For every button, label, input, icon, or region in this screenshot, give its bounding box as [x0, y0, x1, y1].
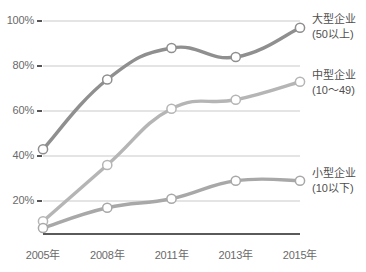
y-axis-tick-label: 20%	[0, 194, 34, 206]
data-point-marker[interactable]	[167, 194, 176, 203]
legend-item-label: 中型企业	[312, 69, 356, 81]
x-axis-tick-label: 2011年	[146, 246, 198, 262]
data-point-marker[interactable]	[38, 223, 47, 232]
x-axis-tick-label: 2008年	[81, 246, 133, 262]
legend-item-sublabel: (10以下)	[312, 181, 356, 196]
legend-item-label: 小型企业	[312, 167, 356, 179]
y-tick-mark-group	[37, 21, 42, 201]
legend-item-label: 大型企业	[312, 13, 356, 25]
legend-item-sublabel: (10～49)	[312, 83, 356, 98]
data-point-marker[interactable]	[231, 52, 240, 61]
x-axis-tick-label: 2005年	[17, 246, 69, 262]
line-chart: 100%80%60%40%20% 2005年2008年2011年2013年201…	[0, 0, 366, 272]
data-point-marker[interactable]	[103, 203, 112, 212]
legend-item-sublabel: (50以上)	[312, 27, 356, 42]
y-axis-tick-label: 80%	[0, 59, 34, 71]
x-axis-tick-label: 2013年	[210, 246, 262, 262]
data-point-marker[interactable]	[167, 43, 176, 52]
y-axis-tick-label: 60%	[0, 104, 34, 116]
data-point-marker[interactable]	[231, 95, 240, 104]
data-point-marker[interactable]	[231, 176, 240, 185]
data-point-marker[interactable]	[103, 75, 112, 84]
data-point-marker[interactable]	[103, 160, 112, 169]
data-point-marker[interactable]	[295, 176, 304, 185]
data-point-marker[interactable]	[167, 104, 176, 113]
legend-item-3[interactable]: 小型企业(10以下)	[312, 166, 356, 196]
y-axis-tick-label: 100%	[0, 14, 34, 26]
y-axis-tick-label: 40%	[0, 149, 34, 161]
x-axis-tick-label: 2015年	[274, 246, 326, 262]
data-point-marker[interactable]	[295, 77, 304, 86]
data-point-marker[interactable]	[38, 145, 47, 154]
data-point-marker[interactable]	[295, 23, 304, 32]
legend-item-2[interactable]: 中型企业(10～49)	[312, 68, 356, 98]
legend-item-1[interactable]: 大型企业(50以上)	[312, 12, 356, 42]
